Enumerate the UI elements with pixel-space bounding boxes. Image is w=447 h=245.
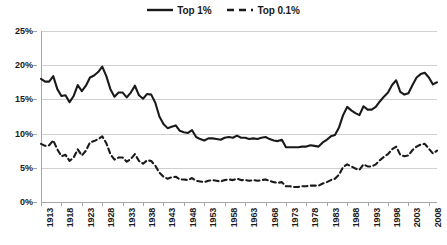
x-tick-mark [347, 202, 348, 206]
x-axis: 1913191819231928193319381943194819531958… [41, 202, 437, 245]
plot-area [41, 31, 437, 202]
y-tick-mark [33, 31, 37, 32]
chart-legend: Top 1% Top 0.1% [0, 2, 447, 18]
x-tick-mark [388, 202, 389, 206]
y-axis: 0%5%10%15%20%25% [0, 31, 37, 202]
y-tick-mark [33, 99, 37, 100]
y-tick-mark [33, 168, 37, 169]
y-tick-mark [33, 65, 37, 66]
x-tick-mark [143, 202, 144, 206]
y-tick-mark [33, 202, 37, 203]
legend-entry-top-0-1[interactable]: Top 0.1% [227, 5, 299, 16]
y-tick-mark [33, 134, 37, 135]
x-tick-label-1923: 1923 [86, 208, 96, 227]
x-tick-label-2008: 2008 [433, 208, 443, 227]
x-tick-mark [429, 202, 430, 206]
x-tick-label-2003: 2003 [412, 208, 422, 227]
series-line-top-0-1 [41, 136, 437, 187]
x-tick-mark [184, 202, 185, 206]
x-tick-label-1983: 1983 [331, 208, 341, 227]
y-tick-label-20: 20% [15, 60, 33, 70]
legend-entry-top-1[interactable]: Top 1% [147, 5, 211, 16]
x-tick-mark [204, 202, 205, 206]
x-tick-label-1918: 1918 [65, 208, 75, 227]
x-tick-label-1938: 1938 [147, 208, 157, 227]
x-tick-mark [306, 202, 307, 206]
x-tick-label-1973: 1973 [290, 208, 300, 227]
x-tick-label-1913: 1913 [45, 208, 55, 227]
x-tick-label-1953: 1953 [208, 208, 218, 227]
x-tick-label-1943: 1943 [167, 208, 177, 227]
y-tick-label-5: 5% [20, 163, 33, 173]
series-line-top-1 [41, 67, 437, 148]
series-layer [41, 31, 437, 202]
x-tick-mark [245, 202, 246, 206]
x-tick-label-1993: 1993 [372, 208, 382, 227]
x-tick-label-1928: 1928 [106, 208, 116, 227]
x-tick-mark [225, 202, 226, 206]
x-tick-mark [41, 202, 42, 206]
x-tick-mark [123, 202, 124, 206]
y-tick-label-25: 25% [15, 26, 33, 36]
x-tick-mark [163, 202, 164, 206]
x-tick-mark [266, 202, 267, 206]
x-tick-label-1968: 1968 [270, 208, 280, 227]
dashed-line-swatch [227, 5, 253, 15]
x-tick-mark [286, 202, 287, 206]
x-tick-mark [102, 202, 103, 206]
x-tick-label-1978: 1978 [310, 208, 320, 227]
y-tick-label-15: 15% [15, 94, 33, 104]
legend-label-top-1: Top 1% [177, 5, 211, 16]
solid-line-swatch [147, 5, 173, 15]
x-tick-mark [61, 202, 62, 206]
x-tick-mark [368, 202, 369, 206]
x-tick-mark [327, 202, 328, 206]
y-tick-label-10: 10% [15, 129, 33, 139]
legend-label-top-0-1: Top 0.1% [257, 5, 299, 16]
x-tick-mark [82, 202, 83, 206]
x-tick-label-1988: 1988 [351, 208, 361, 227]
income-share-line-chart: Top 1% Top 0.1% 0%5%10%15%20%25% 1913191… [0, 0, 447, 245]
x-tick-label-1963: 1963 [249, 208, 259, 227]
x-tick-label-1933: 1933 [127, 208, 137, 227]
x-tick-label-1948: 1948 [188, 208, 198, 227]
x-tick-label-1958: 1958 [229, 208, 239, 227]
x-tick-label-1998: 1998 [392, 208, 402, 227]
y-tick-label-0: 0% [20, 197, 33, 207]
x-tick-mark [408, 202, 409, 206]
